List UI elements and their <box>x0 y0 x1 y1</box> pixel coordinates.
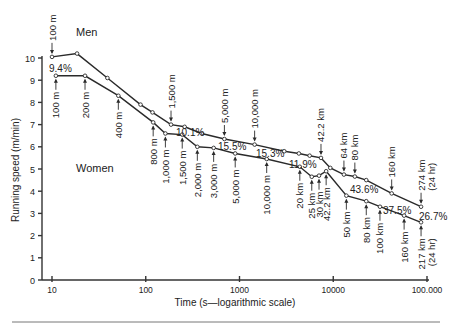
percent-difference-label: 43.6% <box>350 184 378 195</box>
percent-annotations: 9.4%10.1%15.5%15.3%11.9%43.6%37.5%26.7% <box>49 63 447 222</box>
data-point <box>353 175 357 179</box>
data-point <box>364 178 368 182</box>
event-label: 100 m <box>50 92 61 118</box>
data-point <box>50 55 54 59</box>
y-tick-label: 1 <box>30 253 35 263</box>
data-point <box>253 143 257 147</box>
data-point <box>328 166 332 170</box>
event-label: 3,000 m <box>208 164 219 198</box>
x-axis-label: Time (s—logarithmic scale) <box>175 297 296 308</box>
y-tick-label: 9 <box>30 76 35 86</box>
data-point <box>345 194 349 198</box>
data-point <box>169 123 173 127</box>
y-tick-label: 0 <box>30 276 35 286</box>
data-point <box>151 121 155 125</box>
percent-difference-label: 15.5% <box>218 141 246 152</box>
event-label: 200 m <box>80 92 91 118</box>
data-point <box>324 169 328 173</box>
event-label: 42.2 km <box>321 187 332 221</box>
data-point <box>196 145 200 149</box>
percent-difference-label: 9.4% <box>49 63 72 74</box>
data-point <box>139 103 143 107</box>
y-axis-label: Running speed (m/min) <box>10 118 21 222</box>
data-point <box>54 74 58 78</box>
data-point <box>75 52 79 56</box>
y-tick-label: 3 <box>30 209 35 219</box>
event-label: 80 km <box>361 217 372 243</box>
event-label: 100 m <box>47 14 58 40</box>
event-label: 100 km <box>374 223 385 254</box>
event-label: 10,000 m <box>261 175 272 215</box>
percent-difference-label: 37.5% <box>383 205 411 216</box>
y-tick-label: 10 <box>25 54 35 64</box>
x-tick-label: 100 <box>139 285 153 295</box>
data-point <box>151 111 155 115</box>
event-label: 274 km <box>416 160 427 191</box>
percent-difference-label: 15.3% <box>256 148 284 159</box>
event-label: 50 km <box>341 212 352 238</box>
y-tick-label: 2 <box>30 231 35 241</box>
x-tick-label: 10000 <box>321 285 345 295</box>
data-point <box>378 205 382 209</box>
event-label: 1,000 m <box>160 149 171 183</box>
data-point <box>319 156 323 160</box>
event-label: (24 hr) <box>426 163 437 191</box>
y-tick-label: 8 <box>30 98 35 108</box>
event-label: 10,000 m <box>249 89 260 129</box>
data-point <box>364 199 368 203</box>
data-point <box>233 152 237 156</box>
data-point <box>83 74 87 78</box>
x-tick-label: 100.000 <box>412 285 443 295</box>
event-label: 1,500 m <box>177 151 188 185</box>
event-label: 217 km <box>416 238 427 269</box>
data-point <box>390 192 394 196</box>
y-tick-label: 6 <box>30 142 35 152</box>
data-point <box>297 152 301 156</box>
event-label: 160 km <box>399 232 410 263</box>
x-tick-label: 10 <box>47 285 57 295</box>
data-point <box>106 76 110 80</box>
data-point <box>164 132 168 136</box>
data-point <box>342 173 346 177</box>
data-point <box>117 94 121 98</box>
running-speed-chart: 01234567891010100100010000100.000 Men100… <box>0 0 457 327</box>
data-point <box>308 154 312 158</box>
series-label: Women <box>76 162 114 174</box>
series-label: Men <box>76 26 97 38</box>
percent-difference-label: 11.9% <box>289 159 317 170</box>
percent-difference-label: 26.7% <box>419 211 447 222</box>
x-tick-label: 1000 <box>230 285 249 295</box>
event-label: 800 m <box>148 138 159 164</box>
event-label: (24 hr) <box>426 238 437 266</box>
event-label: 20 km <box>294 183 305 209</box>
event-label: 42.2 km <box>315 108 326 142</box>
data-point <box>419 205 423 209</box>
y-tick-label: 7 <box>30 120 35 130</box>
event-label: 80 km <box>349 135 360 161</box>
event-label: 5,000 m <box>230 169 241 203</box>
event-label: 2,000 m <box>192 163 203 197</box>
event-label: 5,000 m <box>219 89 230 123</box>
event-label: 1,500 m <box>166 74 177 108</box>
percent-difference-label: 10.1% <box>176 127 204 138</box>
data-point <box>317 174 321 178</box>
y-tick-label: 4 <box>30 187 35 197</box>
data-point <box>212 146 216 150</box>
event-label: 400 m <box>113 112 124 138</box>
event-label: 160 km <box>386 146 397 177</box>
data-point <box>310 175 314 179</box>
event-label: 64 km <box>338 133 349 159</box>
y-tick-label: 5 <box>30 165 35 175</box>
